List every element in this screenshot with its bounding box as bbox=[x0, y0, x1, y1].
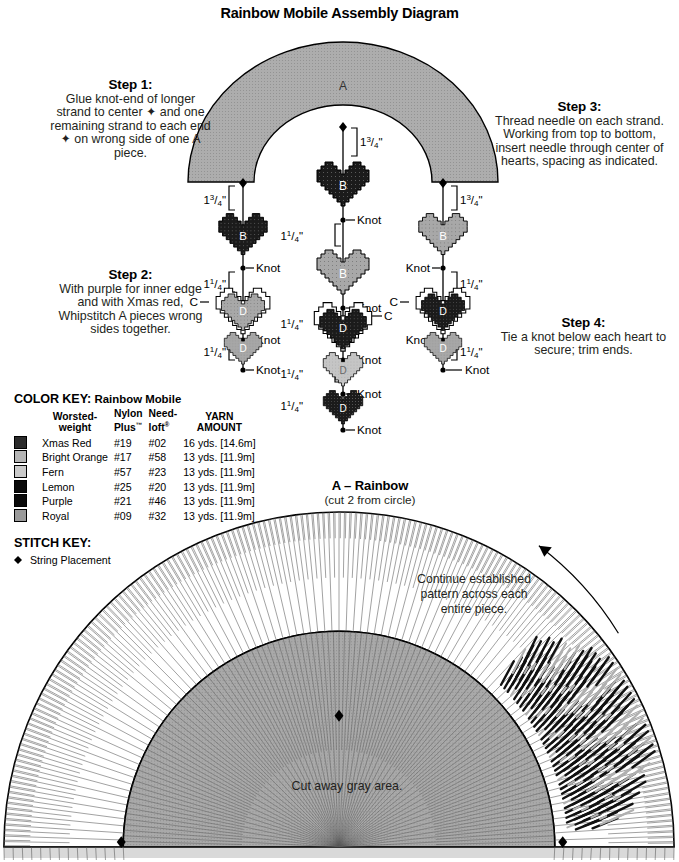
color-key-header-amount: YARN AMOUNT bbox=[183, 409, 261, 436]
knot-label: Knot bbox=[465, 363, 490, 377]
color-key-amount: 13 yds. [11.9m] bbox=[183, 494, 261, 509]
color-key-row: Lemon#25#2013 yds. [11.9m] bbox=[14, 480, 262, 495]
heart-label-d: D bbox=[339, 322, 347, 334]
color-key-needloft: #46 bbox=[149, 494, 184, 509]
color-key-header-nylon: Nylon Plus™ bbox=[114, 409, 149, 436]
step-4-block: Step 4: Tie a knot below each heart to s… bbox=[500, 316, 667, 358]
dim-right-2: 11/4" bbox=[460, 277, 483, 292]
knot-label: Knot bbox=[357, 423, 382, 437]
strand-center: 13/4" B Knot 11/4" B Knot 11/4" D C Knot… bbox=[280, 126, 393, 437]
color-key-needloft: #02 bbox=[149, 436, 184, 451]
color-key-row: Xmas Red#19#0216 yds. [14.6m] bbox=[14, 436, 262, 451]
color-key-swatch-cell bbox=[14, 465, 42, 480]
color-swatch-icon bbox=[14, 450, 27, 463]
color-key-nylon: #19 bbox=[114, 436, 149, 451]
color-key-swatch-header bbox=[14, 409, 42, 436]
color-key-name: Lemon bbox=[42, 480, 114, 495]
dim-center-2: 11/4" bbox=[280, 229, 303, 244]
color-key-name: Xmas Red bbox=[42, 436, 114, 451]
step-3-body: Thread needle on each strand. Working fr… bbox=[495, 114, 664, 169]
knot-label: Knot bbox=[256, 261, 281, 275]
heart-label-d: D bbox=[239, 305, 247, 317]
color-swatch-icon bbox=[14, 494, 27, 507]
registered-icon: ® bbox=[165, 421, 170, 428]
heart-label-d: D bbox=[239, 343, 246, 354]
color-key-nylon: #57 bbox=[114, 465, 149, 480]
heart-label-c: C bbox=[389, 295, 398, 309]
strand-right: 13/4" B Knot 11/4" D C Knot 11/4" D Knot bbox=[389, 182, 490, 377]
color-key-nylon: #17 bbox=[114, 450, 149, 465]
chart-note: Continue established pattern across each… bbox=[404, 572, 544, 617]
color-key-needloft: #20 bbox=[149, 480, 184, 495]
color-key-row: Bright Orange#17#5813 yds. [11.9m] bbox=[14, 450, 262, 465]
step-4-heading: Step 4: bbox=[500, 316, 667, 330]
arch-label-a: A bbox=[339, 79, 347, 93]
heart-label-d: D bbox=[339, 365, 346, 376]
color-swatch-icon bbox=[14, 436, 27, 449]
color-key-nylon: #25 bbox=[114, 480, 149, 495]
cut-away-note: Cut away gray area. bbox=[247, 779, 447, 793]
chart-heading: A – Rainbow bbox=[255, 478, 485, 493]
color-key-row: Fern#57#2313 yds. [11.9m] bbox=[14, 465, 262, 480]
color-key-swatch-cell bbox=[14, 480, 42, 495]
step-2-block: Step 2: With purple for inner edge and w… bbox=[48, 268, 213, 337]
knot-label: Knot bbox=[406, 261, 431, 275]
color-key-header-weight: Worsted- weight bbox=[42, 409, 114, 436]
color-key-amount: 16 yds. [14.6m] bbox=[183, 436, 261, 451]
dim-center-1: 13/4" bbox=[360, 135, 383, 150]
dim-right-3: 11/4" bbox=[460, 345, 483, 360]
color-key-row: Purple#21#4613 yds. [11.9m] bbox=[14, 494, 262, 509]
rainbow-canvas-chart bbox=[0, 510, 679, 860]
heart-label-d: D bbox=[439, 305, 447, 317]
color-key-name: Bright Orange bbox=[42, 450, 114, 465]
heart-label-d: D bbox=[339, 403, 346, 414]
color-key-name: Purple bbox=[42, 494, 114, 509]
color-key: COLOR KEY: Rainbow Mobile Worsted- weigh… bbox=[14, 392, 266, 524]
heart-label-c: C bbox=[384, 309, 393, 323]
heart-label-b: B bbox=[339, 179, 347, 193]
step-1-block: Step 1: Glue knot-end of longer strand t… bbox=[48, 78, 213, 161]
knot-label: Knot bbox=[256, 363, 281, 377]
step-1-heading: Step 1: bbox=[48, 78, 213, 92]
color-key-title-text: COLOR KEY: bbox=[14, 392, 91, 406]
step-3-block: Step 3: Thread needle on each strand. Wo… bbox=[492, 100, 667, 169]
color-swatch-icon bbox=[14, 465, 27, 478]
step-2-heading: Step 2: bbox=[48, 268, 213, 282]
color-key-swatch-cell bbox=[14, 436, 42, 451]
dim-left-1: 13/4" bbox=[203, 193, 226, 208]
dim-center-3: 11/4" bbox=[280, 317, 303, 332]
heart-label-b: B bbox=[339, 267, 347, 281]
color-key-header-needloft: Need- loft® bbox=[149, 409, 184, 436]
color-key-name: Fern bbox=[42, 465, 114, 480]
step-3-heading: Step 3: bbox=[492, 100, 667, 114]
chart-subheading: (cut 2 from circle) bbox=[255, 493, 485, 507]
knot-label: Knot bbox=[357, 213, 382, 227]
color-key-amount: 13 yds. [11.9m] bbox=[183, 480, 261, 495]
trademark-icon: ™ bbox=[136, 421, 143, 428]
color-key-needloft: #23 bbox=[149, 465, 184, 480]
dim-center-4: 11/4" bbox=[280, 367, 303, 382]
step-2-body: With purple for inner edge and with Xmas… bbox=[59, 282, 203, 337]
color-key-nylon: #21 bbox=[114, 494, 149, 509]
color-swatch-icon bbox=[14, 480, 27, 493]
color-key-table: Worsted- weight Nylon Plus™ Need- loft® … bbox=[14, 409, 262, 524]
dim-right-1: 13/4" bbox=[460, 193, 483, 208]
heart-label-b: B bbox=[239, 230, 247, 242]
color-key-header-row: Worsted- weight Nylon Plus™ Need- loft® … bbox=[14, 409, 262, 436]
color-key-swatch-cell bbox=[14, 494, 42, 509]
chart-heading-block: A – Rainbow (cut 2 from circle) bbox=[255, 478, 485, 507]
color-key-amount: 13 yds. [11.9m] bbox=[183, 450, 261, 465]
heart-label-b: B bbox=[439, 230, 447, 242]
color-key-needloft: #58 bbox=[149, 450, 184, 465]
color-key-subtitle: Rainbow Mobile bbox=[95, 393, 182, 405]
baseline-strip bbox=[4, 847, 674, 858]
color-key-amount: 13 yds. [11.9m] bbox=[183, 465, 261, 480]
color-key-title: COLOR KEY: Rainbow Mobile bbox=[14, 392, 266, 406]
step-4-body: Tie a knot below each heart to secure; t… bbox=[501, 330, 667, 358]
heart-label-d: D bbox=[439, 343, 446, 354]
color-key-swatch-cell bbox=[14, 450, 42, 465]
dim-center-5: 11/4" bbox=[280, 399, 303, 414]
dim-left-3: 11/4" bbox=[203, 345, 226, 360]
step-1-body: Glue knot-end of longer strand to center… bbox=[50, 92, 211, 160]
